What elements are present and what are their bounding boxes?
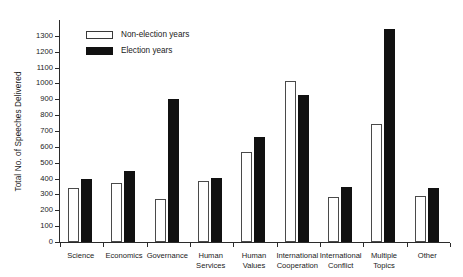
bar-group [363,20,406,242]
y-tick-mark [55,36,59,37]
y-tick-label: 700 [40,125,53,136]
bar-nonelection [415,196,426,242]
y-tick-mark [55,210,59,211]
y-tick-label: 1300 [36,30,53,41]
y-tick-mark [55,99,59,100]
legend-item-nonelection: Non-election years [86,28,246,41]
x-tick-mark [233,243,234,247]
bar-nonelection [68,188,79,242]
x-tick-mark [147,243,148,247]
y-tick-mark [55,194,59,195]
legend-label-nonelection: Non-election years [121,30,189,40]
x-tick-mark [450,243,451,247]
bar-election [298,95,309,242]
y-tick-label: 200 [40,204,53,215]
bar-group [320,20,363,242]
y-tick-mark [55,68,59,69]
y-tick-mark [55,179,59,180]
bar-group [407,20,450,242]
legend-swatch-nonelection-icon [86,31,113,39]
bar-election [384,29,395,242]
bar-group [277,20,320,242]
x-tick-mark [60,243,61,247]
y-tick-mark [55,242,59,243]
bar-nonelection [155,199,166,242]
y-tick-mark [55,131,59,132]
y-axis-title: Total No. of Speeches Delivered [12,25,26,238]
bar-election [211,178,222,242]
y-tick-label: 800 [40,109,53,120]
y-tick-label: 1000 [36,77,53,88]
x-tick-mark [320,243,321,247]
legend-item-election: Election years [86,44,246,57]
y-tick-mark [55,52,59,53]
y-tick-label: 1100 [37,62,53,73]
bar-election [254,137,265,242]
y-tick-label: 500 [40,157,53,168]
bar-election [341,187,352,242]
bar-election [428,188,439,242]
y-tick-mark [55,147,59,148]
x-category-label: Other [396,251,458,261]
y-tick-label: 100 [40,220,53,231]
y-tick-label: 1200 [36,46,53,57]
legend: Non-election years Election years [86,28,246,60]
y-tick-label: 900 [40,93,53,104]
x-tick-mark [277,243,278,247]
bar-election [81,179,92,242]
y-tick-label: 300 [40,188,53,199]
bar-nonelection [285,81,296,242]
y-tick-mark [55,83,59,84]
bar-election [168,99,179,242]
x-tick-mark [363,243,364,247]
bar-nonelection [111,183,122,242]
x-tick-mark [103,243,104,247]
bar-chart: Total No. of Speeches Delivered 01002003… [0,0,463,277]
bar-election [124,171,135,242]
x-axis-line [59,242,450,243]
bar-nonelection [371,124,382,242]
bar-nonelection [328,197,339,242]
x-tick-mark [190,243,191,247]
legend-swatch-election-icon [86,47,113,55]
legend-label-election: Election years [121,46,172,56]
y-tick-label: 0 [49,236,53,247]
y-tick-mark [55,163,59,164]
y-tick-label: 400 [40,173,53,184]
x-tick-mark [407,243,408,247]
y-tick-mark [55,226,59,227]
y-tick-label: 600 [40,141,53,152]
bar-nonelection [241,152,252,242]
y-tick-mark [55,115,59,116]
bar-nonelection [198,181,209,242]
